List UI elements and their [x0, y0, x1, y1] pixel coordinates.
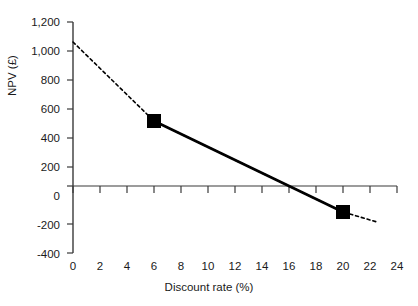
npv-sensitivity-chart: NPV (£) 1,200 1,000 800 600 400 200 0 -2…: [0, 0, 418, 306]
y-axis-ticks: [67, 22, 73, 253]
data-marker-20pct: [336, 205, 350, 219]
plot-canvas: [0, 0, 418, 306]
solid-npv-line: [154, 121, 343, 212]
data-marker-6pct: [147, 114, 161, 128]
dashed-npv-curve: [73, 42, 377, 222]
x-axis-ticks: [73, 186, 397, 193]
